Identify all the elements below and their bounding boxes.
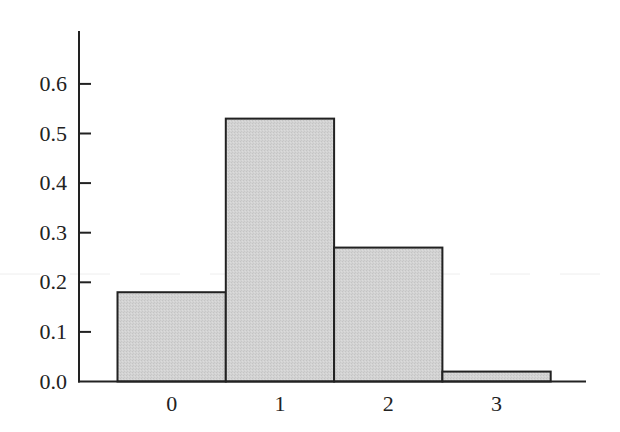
y-tick-label: 0.0	[40, 369, 68, 394]
bar-1	[226, 119, 334, 382]
y-tick-label: 0.2	[40, 269, 68, 294]
bar-0	[118, 292, 226, 381]
bars-group	[118, 119, 551, 382]
bar-3	[442, 372, 550, 382]
y-tick-label: 0.3	[40, 220, 68, 245]
y-axis: 0.00.10.20.30.40.50.6	[40, 31, 92, 394]
bar-chart: 0.00.10.20.30.40.50.6 0123	[0, 0, 620, 432]
x-tick-label: 1	[274, 391, 285, 416]
x-tick-label: 3	[491, 391, 502, 416]
x-tick-label: 0	[166, 391, 177, 416]
y-tick-label: 0.1	[40, 319, 68, 344]
y-tick-label: 0.5	[40, 121, 68, 146]
x-tick-label: 2	[383, 391, 394, 416]
y-tick-label: 0.4	[40, 170, 68, 195]
y-tick-label: 0.6	[40, 71, 68, 96]
x-axis: 0123	[78, 382, 586, 417]
bar-2	[334, 248, 442, 382]
